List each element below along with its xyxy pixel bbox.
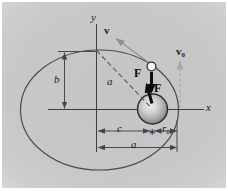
r0-label-sub: 0 — [166, 128, 170, 136]
v0-label: v0 — [176, 45, 185, 61]
velocity-label: v — [104, 24, 110, 36]
orbit-diagram-canvas — [0, 0, 228, 191]
y-axis-label: y — [91, 11, 96, 23]
v0-label-sub: 0 — [182, 51, 186, 59]
satellite-dot — [147, 62, 156, 71]
x-axis-label: x — [206, 101, 211, 113]
c-label: c — [117, 122, 122, 134]
r0-label: r0 — [162, 122, 170, 138]
focus-marker: ∗ — [148, 126, 156, 138]
a-dimension-label: a — [131, 138, 137, 150]
dashed-a-label: a — [107, 75, 113, 87]
velocity-arrow — [116, 39, 150, 64]
b-label: b — [54, 73, 60, 85]
orbit-figure: y x v v0 F F a b c r0 a ∗ — [0, 0, 228, 191]
force-planet-label: F — [154, 82, 161, 94]
force-satellite-label: F — [134, 67, 141, 79]
